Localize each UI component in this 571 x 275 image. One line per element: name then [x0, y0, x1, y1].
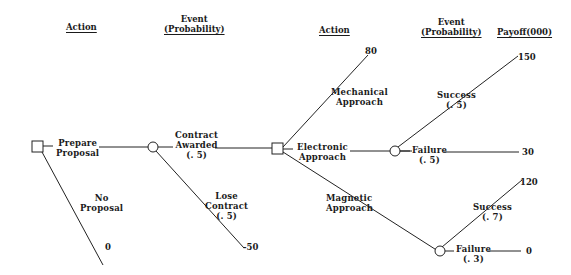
- branch-electronic-success-label: Success (. 5): [437, 90, 476, 110]
- decision-node-2-square-icon: [272, 143, 283, 154]
- header-action-2: Action: [319, 25, 350, 35]
- branch-electronic-failure-label: Failure (. 5): [412, 145, 447, 165]
- payoff-electronic-success: 150: [518, 52, 536, 62]
- lose-contract-line2: Contract: [205, 201, 248, 211]
- lose-contract-prob: (. 5): [205, 211, 248, 221]
- payoff-magnetic-failure: 0: [526, 246, 532, 256]
- header-payoff: Payoff(000): [497, 27, 552, 37]
- branch-mechanical-label: Mechanical Approach: [331, 87, 388, 107]
- electronic-line1: Electronic: [297, 142, 348, 152]
- payoff-magnetic-success: 120: [520, 177, 538, 187]
- electronic-success-prob: (. 5): [437, 100, 476, 110]
- electronic-failure-line1: Failure: [412, 145, 447, 155]
- chance-node-3-circle-icon: [435, 246, 445, 256]
- magnetic-success-line1: Success: [473, 202, 512, 212]
- prepare-proposal-line2: Proposal: [56, 148, 99, 158]
- magnetic-line1: Magnetic: [326, 193, 373, 203]
- header-event-1: Event (Probability): [164, 14, 225, 34]
- electronic-success-line1: Success: [437, 90, 476, 100]
- payoff-mechanical: 80: [365, 46, 377, 56]
- decision-node-1-square-icon: [32, 141, 43, 152]
- magnetic-line2: Approach: [326, 203, 373, 213]
- payoff-electronic-failure: 30: [522, 147, 534, 157]
- branch-contract-awarded-label: Contract Awarded (. 5): [175, 130, 218, 160]
- header-event-1-line2: (Probability): [164, 24, 225, 34]
- branch-magnetic-label: Magnetic Approach: [326, 193, 373, 213]
- header-event-2-line1: Event: [421, 17, 482, 27]
- electronic-line2: Approach: [297, 152, 348, 162]
- electronic-failure-prob: (. 5): [412, 155, 447, 165]
- mechanical-line2: Approach: [331, 97, 388, 107]
- header-action-1: Action: [66, 22, 97, 32]
- contract-awarded-line1: Contract: [175, 130, 218, 140]
- header-event-2-line2: (Probability): [421, 27, 482, 37]
- prepare-proposal-line1: Prepare: [56, 138, 99, 148]
- branch-electronic-label: Electronic Approach: [297, 142, 348, 162]
- chance-node-2-circle-icon: [390, 146, 400, 156]
- header-event-2: Event (Probability): [421, 17, 482, 37]
- no-proposal-line2: Proposal: [80, 203, 123, 213]
- branch-prepare-proposal-label: Prepare Proposal: [56, 138, 99, 158]
- magnetic-failure-line1: Failure: [456, 244, 491, 254]
- payoff-lose-contract: -50: [243, 242, 258, 252]
- magnetic-failure-prob: (. 3): [456, 254, 491, 264]
- header-event-1-line1: Event: [164, 14, 225, 24]
- branch-no-proposal-label: No Proposal: [80, 193, 123, 213]
- branch-magnetic-success-label: Success (. 7): [473, 202, 512, 222]
- magnetic-success-prob: (. 7): [473, 212, 512, 222]
- payoff-no-proposal: 0: [105, 242, 111, 252]
- contract-awarded-prob: (. 5): [175, 150, 218, 160]
- lose-contract-line1: Lose: [205, 191, 248, 201]
- branch-magnetic-failure-label: Failure (. 3): [456, 244, 491, 264]
- contract-awarded-line2: Awarded: [175, 140, 218, 150]
- no-proposal-line1: No: [80, 193, 123, 203]
- chance-node-1-circle-icon: [148, 142, 158, 152]
- mechanical-line1: Mechanical: [331, 87, 388, 97]
- branch-lose-contract-label: Lose Contract (. 5): [205, 191, 248, 221]
